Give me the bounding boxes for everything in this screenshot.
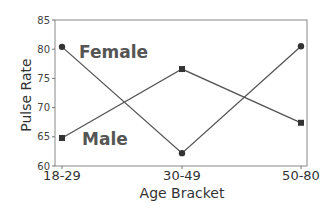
x-tick-label: 18-29 — [43, 168, 81, 183]
y-axis: 606570758085 — [37, 15, 55, 172]
series-label-female: Female — [79, 42, 148, 62]
y-tick-label: 65 — [37, 131, 50, 142]
y-tick-label: 70 — [37, 102, 50, 113]
data-point-male — [298, 120, 304, 126]
series-label-male: Male — [82, 129, 128, 149]
data-point-female — [298, 43, 304, 49]
data-point-female — [179, 150, 185, 156]
line-chart: 606570758085 18-2930-4950-80 Pulse Rate … — [0, 0, 334, 211]
x-tick-label: 50-80 — [282, 168, 320, 183]
x-axis: 18-2930-4950-80 — [43, 166, 320, 183]
y-axis-title: Pulse Rate — [18, 58, 34, 131]
x-tick-label: 30-49 — [163, 168, 201, 183]
x-axis-title: Age Bracket — [140, 185, 225, 201]
data-point-male — [59, 135, 65, 141]
y-tick-label: 85 — [37, 15, 50, 26]
data-point-female — [59, 44, 65, 50]
y-tick-label: 75 — [37, 73, 50, 84]
data-point-male — [179, 66, 185, 72]
y-tick-label: 80 — [37, 44, 50, 55]
